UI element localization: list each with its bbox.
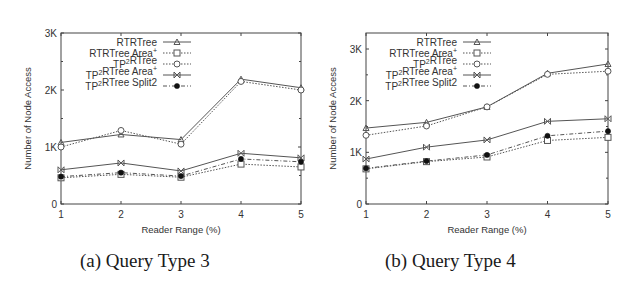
x-axis: 12345: [363, 33, 611, 220]
square-marker-icon: [298, 164, 304, 170]
y-axis: 01K2K3K: [45, 28, 301, 210]
x-axis-title: Reader Range (%): [447, 224, 526, 235]
circle-marker-icon: [424, 123, 430, 129]
filled-circle-marker-icon: [118, 170, 123, 175]
x-tick-label: 2: [424, 209, 430, 220]
y-tick-label: 2K: [45, 85, 58, 96]
y-tick-label: 2K: [350, 96, 363, 107]
x-axis: 12345: [58, 33, 304, 220]
square-marker-icon: [174, 50, 180, 56]
x-axis-title: Reader Range (%): [141, 224, 220, 235]
y-tick-label: 3K: [45, 28, 58, 39]
y-tick-label: 0: [51, 199, 57, 210]
square-marker-icon: [238, 161, 244, 167]
figure-caption-b: (b) Query Type 4: [385, 250, 516, 272]
circle-marker-icon: [605, 68, 611, 74]
filled-circle-marker-icon: [605, 129, 610, 134]
filled-circle-marker-icon: [545, 133, 550, 138]
y-tick-label: 3K: [350, 44, 363, 55]
x-tick-label: 1: [363, 209, 369, 220]
filled-circle-marker-icon: [298, 159, 303, 164]
x-tick-label: 4: [238, 209, 244, 220]
filled-circle-marker-icon: [178, 173, 183, 178]
square-marker-icon: [605, 134, 611, 140]
x-tick-label: 3: [484, 209, 490, 220]
y-axis-title: Number of Node Access: [22, 67, 33, 170]
chart-panel-query-type-3: 01K2K3K12345Reader Range (%)Number of No…: [0, 0, 318, 297]
chart-panel-query-type-4: 01K2K3K12345Reader Range (%)Number of No…: [318, 0, 636, 297]
filled-circle-marker-icon: [238, 156, 243, 161]
legend: RTRTreeRTRTree Area+TP2RTreeTP2RTree Are…: [85, 37, 191, 92]
figure-caption-a: (a) Query Type 3: [80, 250, 210, 272]
series-tp2rtree-area-: [58, 150, 304, 174]
circle-marker-icon: [238, 78, 244, 84]
circle-marker-icon: [484, 104, 490, 110]
circle-marker-icon: [58, 144, 64, 150]
legend-label: RTRTree: [417, 37, 458, 48]
plot-frame: [366, 33, 608, 204]
circle-marker-icon: [474, 61, 480, 67]
y-tick-label: 1K: [45, 142, 58, 153]
x-tick-label: 5: [298, 209, 304, 220]
series-tp2rtree-split2: [363, 129, 610, 171]
x-tick-label: 4: [545, 209, 551, 220]
filled-circle-marker-icon: [424, 159, 429, 164]
legend: RTRTreeRTRTree Area+TP2RTreeTP2RTree Are…: [385, 37, 491, 92]
legend-label: RTRTree: [117, 37, 158, 48]
square-marker-icon: [474, 50, 480, 56]
x-tick-label: 1: [58, 209, 64, 220]
circle-marker-icon: [118, 127, 124, 133]
circle-marker-icon: [545, 71, 551, 77]
y-tick-label: 0: [356, 199, 362, 210]
circle-marker-icon: [178, 141, 184, 147]
y-axis-title: Number of Node Access: [327, 67, 338, 170]
x-tick-label: 5: [605, 209, 611, 220]
circle-marker-icon: [298, 87, 304, 93]
filled-circle-marker-icon: [484, 152, 489, 157]
filled-circle-marker-icon: [474, 83, 479, 88]
filled-circle-marker-icon: [58, 174, 63, 179]
circle-marker-icon: [174, 61, 180, 67]
filled-circle-marker-icon: [174, 83, 179, 88]
y-tick-label: 1K: [350, 147, 363, 158]
x-tick-label: 3: [178, 209, 184, 220]
circle-marker-icon: [363, 132, 369, 138]
x-tick-label: 2: [118, 209, 124, 220]
filled-circle-marker-icon: [363, 166, 368, 171]
